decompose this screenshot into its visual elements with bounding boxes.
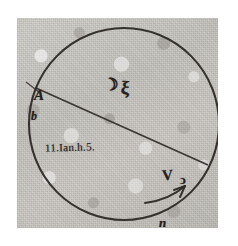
manuscript-paper-sheet: A b B 11.Ian.h.5. ☽ ξ V ↄ n [17,18,218,228]
chord-A-B [36,88,208,165]
scanned-image-canvas: A b B 11.Ian.h.5. ☽ ξ V ↄ n [0,0,238,246]
xi-symbol-icon: ξ [120,78,130,98]
main-circle [29,28,218,220]
label-point-b-left: b [31,110,37,122]
loop-symbol-icon: ↄ [180,173,186,186]
label-motion-letter: n [159,216,166,228]
label-date-note: 11.Ian.h.5. [45,141,95,153]
label-point-a: A [34,88,44,103]
label-letter-v: V [162,168,174,184]
ink-drawing-layer [17,18,218,228]
moon-symbol-icon: ☽ [102,75,119,93]
